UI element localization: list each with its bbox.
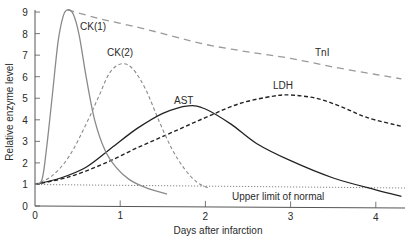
label-ast: AST [174, 95, 193, 106]
x-tick-label: 2 [203, 211, 209, 222]
label-ck2: CK(2) [107, 47, 133, 58]
y-tick-label: 2 [22, 158, 28, 169]
label-tni: TnI [315, 47, 329, 58]
x-axis-title: Days after infarction [174, 225, 263, 236]
series-ck2-line [35, 64, 208, 188]
series-ck1-line [35, 10, 167, 194]
label-ldh: LDH [273, 80, 293, 91]
y-tick-label: 1 [22, 179, 28, 190]
x-axis: 01234 [32, 200, 405, 222]
x-tick-label: 4 [373, 212, 379, 223]
y-axis-title: Relative enzyme level [4, 63, 15, 160]
series-tni-line [67, 10, 401, 79]
y-tick-label: 9 [22, 7, 28, 18]
y-tick-label: 8 [22, 29, 28, 40]
upper-limit-of-normal-line [35, 185, 405, 189]
x-tick-label: 1 [117, 210, 123, 221]
y-tick-label: 3 [22, 136, 28, 147]
y-tick-label: 5 [22, 93, 28, 104]
label-upper-limit: Upper limit of normal [232, 191, 324, 202]
y-tick-label: 7 [22, 50, 28, 61]
x-tick-label: 3 [288, 211, 294, 222]
enzyme-level-chart: 0123456789 01234 CK(1) CK(2) TnI AST LDH… [0, 0, 407, 251]
y-tick-label: 0 [22, 201, 28, 212]
x-tick-label: 0 [32, 210, 38, 221]
series-ast-line [35, 106, 401, 197]
series-ldh-line [35, 95, 401, 185]
y-tick-label: 6 [22, 72, 28, 83]
y-axis: 0123456789 [22, 7, 40, 212]
label-ck1: CK(1) [80, 21, 106, 32]
y-tick-label: 4 [22, 115, 28, 126]
